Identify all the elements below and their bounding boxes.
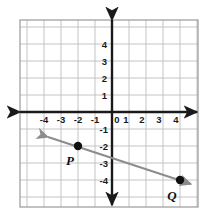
x-tick-label-4: 4: [173, 114, 179, 125]
x-tick-label-2: 2: [139, 114, 144, 125]
x-tick-label--3: -3: [57, 114, 65, 125]
y-tick-label-2: 2: [102, 73, 107, 84]
y-tick-label--1: -1: [100, 124, 109, 135]
y-tick-label--3: -3: [100, 158, 108, 169]
point-q-marker: [176, 176, 184, 184]
x-tick-label--1: -1: [91, 114, 100, 125]
x-tick-label-1: 1: [123, 114, 129, 125]
y-tick-label--4: -4: [100, 175, 109, 186]
coordinate-plane-figure: -4 -3 -2 -1 0 1 2 3 4 4 3 2 1 -1 -2 -3 -…: [0, 0, 217, 222]
point-p-label: P: [66, 153, 75, 168]
point-q-label: Q: [167, 188, 177, 203]
x-tick-label--2: -2: [74, 114, 82, 125]
y-tick-label-3: 3: [102, 56, 107, 67]
y-tick-label-4: 4: [102, 39, 108, 50]
y-tick-label--2: -2: [100, 141, 108, 152]
x-tick-label-0: 0: [114, 114, 119, 125]
x-tick-label-3: 3: [156, 114, 161, 125]
coordinate-plane-svg: -4 -3 -2 -1 0 1 2 3 4 4 3 2 1 -1 -2 -3 -…: [0, 0, 217, 222]
point-p-marker: [74, 142, 82, 150]
y-tick-label-1: 1: [102, 90, 108, 101]
x-tick-label--4: -4: [40, 114, 49, 125]
